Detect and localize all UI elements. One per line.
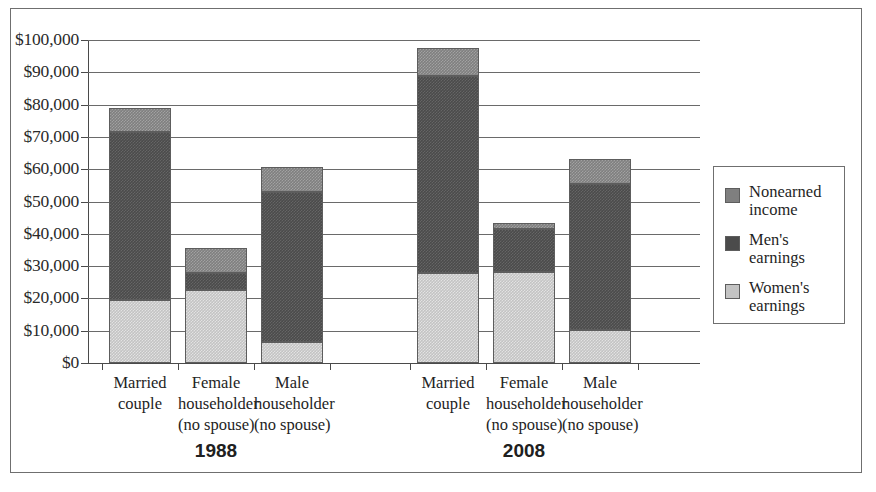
legend-item: Women'searnings — [725, 279, 809, 315]
gridline — [88, 137, 700, 138]
bar-segment-women-earnings — [569, 330, 631, 363]
legend-item: Nonearnedincome — [725, 183, 821, 219]
bar-segment-mens-earnings — [261, 192, 323, 342]
group-year-label: 2008 — [410, 440, 638, 462]
x-axis-category-label: Marriedcouple — [410, 372, 486, 414]
category-label-line: Female — [486, 372, 562, 393]
x-axis-line — [88, 363, 700, 364]
gridline — [88, 40, 700, 41]
bar-stack — [185, 248, 247, 363]
y-axis-tick — [81, 72, 88, 73]
bar-segment-mens-earnings — [569, 184, 631, 330]
y-axis-label: $90,000 — [24, 61, 79, 82]
bar-stack — [261, 167, 323, 363]
bar-segment-mens-earnings — [493, 229, 555, 272]
category-label-line: householder — [486, 393, 562, 414]
category-label-line: couple — [410, 393, 486, 414]
bar-segment-women-earnings — [493, 272, 555, 363]
category-label-line: householder — [178, 393, 254, 414]
chart-legend: NonearnedincomeMen'searningsWomen'searni… — [713, 166, 845, 324]
y-axis-tick — [81, 105, 88, 106]
bar-segment-mens-earnings — [185, 273, 247, 290]
legend-swatch-nonearned-income — [725, 188, 740, 203]
x-axis-category-label: Malehouseholder(no spouse) — [254, 372, 330, 435]
legend-label-line: Nonearned — [749, 183, 821, 201]
category-label-line: householder — [254, 393, 330, 414]
y-axis-label: $10,000 — [24, 319, 79, 340]
y-axis-label: $60,000 — [24, 158, 79, 179]
y-axis-label: $0 — [62, 352, 79, 373]
x-axis-tick — [410, 363, 411, 370]
y-axis-label: $40,000 — [24, 222, 79, 243]
x-axis-tick — [638, 363, 639, 370]
bar-segment-nonearned-income — [109, 108, 171, 132]
x-axis-category-label: Femalehouseholder(no spouse) — [178, 372, 254, 435]
category-label-line: Married — [102, 372, 178, 393]
category-label-line: (no spouse) — [486, 414, 562, 435]
category-label-line: householder — [562, 393, 638, 414]
bar-stack — [569, 159, 631, 363]
bar-segment-nonearned-income — [493, 223, 555, 228]
y-axis-tick — [81, 266, 88, 267]
bar-segment-women-earnings — [185, 290, 247, 363]
legend-label-line: earnings — [749, 249, 805, 267]
chart-figure: $100,000$90,000$80,000$70,000$60,000$50,… — [0, 0, 876, 492]
y-axis-label: $100,000 — [15, 29, 79, 50]
bar-segment-nonearned-income — [417, 48, 479, 75]
category-label-line: (no spouse) — [562, 414, 638, 435]
category-label-line: Married — [410, 372, 486, 393]
category-label-line: (no spouse) — [178, 414, 254, 435]
category-label-line: Male — [254, 372, 330, 393]
legend-swatch-womens-earnings — [725, 284, 740, 299]
y-axis-label: $30,000 — [24, 255, 79, 276]
bar-segment-mens-earnings — [109, 132, 171, 300]
y-axis-tick — [81, 40, 88, 41]
bar-segment-women-earnings — [109, 300, 171, 363]
plot-area: $100,000$90,000$80,000$70,000$60,000$50,… — [88, 40, 700, 363]
y-axis-tick — [81, 331, 88, 332]
y-axis-tick — [81, 234, 88, 235]
gridline — [88, 105, 700, 106]
legend-label-line: Women's — [749, 279, 809, 297]
y-axis-label: $70,000 — [24, 126, 79, 147]
bar-segment-women-earnings — [417, 273, 479, 363]
x-axis-category-label: Marriedcouple — [102, 372, 178, 414]
y-axis-label: $50,000 — [24, 190, 79, 211]
x-axis-tick — [562, 363, 563, 370]
legend-swatch-mens-earnings — [725, 236, 740, 251]
x-axis-tick — [330, 363, 331, 370]
bar-segment-nonearned-income — [261, 167, 323, 192]
y-axis-tick — [81, 169, 88, 170]
x-axis-category-label: Femalehouseholder(no spouse) — [486, 372, 562, 435]
bar-stack — [493, 223, 555, 363]
y-axis-tick — [81, 202, 88, 203]
category-label-line: couple — [102, 393, 178, 414]
x-axis-tick — [254, 363, 255, 370]
category-label-line: Male — [562, 372, 638, 393]
bar-stack — [417, 48, 479, 363]
legend-item: Men'searnings — [725, 231, 805, 267]
bar-segment-nonearned-income — [569, 159, 631, 184]
legend-label: Nonearnedincome — [749, 183, 821, 219]
y-axis-label: $20,000 — [24, 287, 79, 308]
gridline — [88, 72, 700, 73]
group-year-label: 1988 — [102, 440, 330, 462]
bar-segment-nonearned-income — [185, 248, 247, 273]
legend-label: Women'searnings — [749, 279, 809, 315]
category-label-line: (no spouse) — [254, 414, 330, 435]
y-axis-tick — [81, 298, 88, 299]
bar-stack — [109, 108, 171, 363]
category-label-line: Female — [178, 372, 254, 393]
x-axis-tick — [102, 363, 103, 370]
y-axis-tick — [81, 137, 88, 138]
legend-label-line: Men's — [749, 231, 805, 249]
x-axis-tick — [486, 363, 487, 370]
legend-label-line: earnings — [749, 297, 809, 315]
x-axis-category-label: Malehouseholder(no spouse) — [562, 372, 638, 435]
x-axis-tick — [178, 363, 179, 370]
y-axis-label: $80,000 — [24, 93, 79, 114]
legend-label-line: income — [749, 201, 821, 219]
bar-segment-mens-earnings — [417, 76, 479, 273]
legend-label: Men'searnings — [749, 231, 805, 267]
bar-segment-women-earnings — [261, 342, 323, 363]
